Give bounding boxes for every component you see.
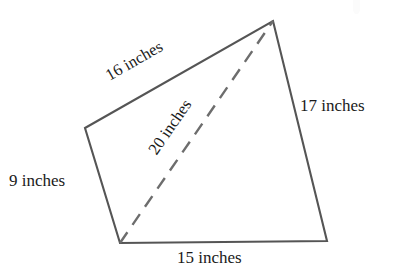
quadrilateral-diagram xyxy=(0,0,408,280)
side-label-17-inches: 17 inches xyxy=(300,97,365,114)
geometry-figure: 16 inches 20 inches 17 inches 9 inches 1… xyxy=(0,0,408,280)
side-label-15-inches: 15 inches xyxy=(177,249,242,266)
scan-artifact xyxy=(353,0,360,14)
side-label-9-inches: 9 inches xyxy=(9,172,65,189)
quadrilateral-outline xyxy=(85,21,327,243)
